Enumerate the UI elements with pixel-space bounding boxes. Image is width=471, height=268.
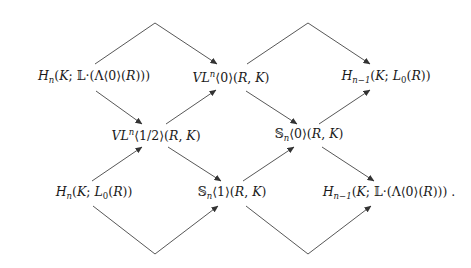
arrow-hn-lambda-to-vln12	[96, 91, 142, 124]
node-sn0: 𝕊_n⟨0⟩(R, K) 𝕊n⟨0⟩(R, K)	[275, 128, 344, 143]
node-vln12: VL^n⟨1/2⟩(R, K) VLn⟨1/2⟩(R, K)	[111, 128, 200, 143]
node-vln0: VL^n⟨0⟩(R, K) VLn⟨0⟩(R, K)	[192, 70, 269, 85]
commutative-diagram: H_n(K; 𝕃·(Λ⟨0⟩(R))) Hn(K; 𝕃·(Λ⟨0⟩(R))) V…	[0, 0, 471, 268]
node-hn1-l0: H_{n-1}(K; L_0(R)) Hn−1(K; L0(R))	[341, 70, 430, 85]
node-sn1: 𝕊_n⟨1⟩(R, K) 𝕊n⟨1⟩(R, K)	[198, 186, 267, 201]
arrow-sn1-to-sn0	[243, 147, 294, 181]
arrow-hn-l0-to-vln12	[92, 147, 142, 181]
node-hn1-llambda: H_{n-1}(K; 𝕃·(Λ⟨0⟩(R))) . Hn−1(K; 𝕃·(Λ⟨0…	[323, 186, 456, 201]
arrow-sn0-to-hn1-l0	[319, 90, 370, 124]
arrow-arc-bottom-right	[246, 206, 371, 254]
node-hn-l0: H_n(K; L_0(R)) Hn(K; L0(R))	[56, 186, 133, 201]
arrows-layer	[0, 0, 471, 268]
arrow-vln12-to-sn1	[168, 147, 221, 181]
arrow-arc-top-left	[95, 23, 217, 64]
arrow-vln12-to-vln0	[166, 90, 216, 124]
arrow-sn0-to-hn1-lambda	[322, 147, 374, 181]
node-hn-llambda: H_n(K; 𝕃·(Λ⟨0⟩(R))) Hn(K; 𝕃·(Λ⟨0⟩(R)))	[38, 70, 150, 85]
arrow-arc-bottom-left	[93, 206, 218, 254]
arrow-arc-top-right	[247, 23, 370, 64]
arrow-vln0-to-sn0	[246, 91, 297, 124]
